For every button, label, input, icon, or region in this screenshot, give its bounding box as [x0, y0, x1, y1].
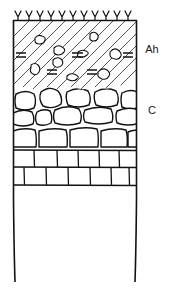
vegetation-tick	[15, 11, 21, 20]
stone-blob	[67, 74, 79, 81]
horizon-label-ah: Ah	[145, 43, 158, 55]
vegetation-tick	[125, 11, 131, 20]
vegetation-tick	[37, 11, 43, 20]
vegetation-marks	[15, 11, 131, 20]
profile-drawing: Ah C	[0, 0, 179, 295]
vegetation-tick	[26, 11, 32, 20]
boulder	[94, 89, 118, 107]
boulder	[128, 130, 140, 147]
boulder	[66, 89, 90, 107]
stone-blob	[53, 58, 63, 68]
stone-blob	[98, 69, 110, 79]
vegetation-tick	[59, 11, 65, 20]
bedrock-group	[13, 150, 137, 186]
boulder	[15, 92, 36, 111]
boulder	[101, 129, 127, 147]
c-horizon-group	[12, 84, 141, 150]
boulder	[70, 128, 98, 147]
boulder	[54, 107, 82, 125]
boulder	[84, 107, 113, 124]
bedrock-parting	[13, 167, 137, 168]
boulder	[121, 91, 141, 110]
boulder	[36, 110, 52, 126]
c-horizon-fill	[12, 84, 141, 150]
soil-profile-figure: Ah C	[0, 0, 179, 295]
boulder	[12, 110, 34, 126]
stone-blob	[90, 32, 98, 41]
vegetation-tick	[92, 11, 98, 20]
bedrock-row-a-joints	[34, 150, 120, 167]
boulder	[13, 129, 36, 147]
stone-blob	[54, 46, 65, 55]
stone-blob	[30, 64, 39, 75]
bedrock-parting	[13, 185, 137, 186]
horizon-label-c: C	[148, 104, 156, 116]
vegetation-tick	[70, 11, 76, 20]
boulder	[39, 129, 67, 147]
vegetation-tick	[114, 11, 120, 20]
boulder	[40, 88, 62, 107]
vegetation-tick	[48, 11, 54, 20]
stone-blob	[35, 35, 45, 44]
c-boulder-row-3	[13, 128, 140, 147]
vegetation-tick	[81, 11, 87, 20]
vegetation-tick	[103, 11, 109, 20]
bedrock-row-b-joints	[24, 167, 130, 185]
